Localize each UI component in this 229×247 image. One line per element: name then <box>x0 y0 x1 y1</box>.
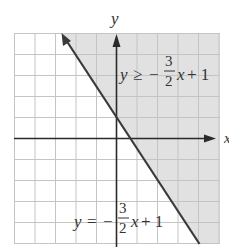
svg-text:+ 1: + 1 <box>187 65 209 84</box>
svg-text:+ 1: + 1 <box>141 212 163 231</box>
svg-text:3: 3 <box>165 53 173 69</box>
x-axis-label: x <box>223 130 229 146</box>
coordinate-graph: y x y ≥ − 3 2 x + 1 y = − 3 2 x + 1 <box>0 0 229 247</box>
svg-text:−: − <box>103 212 113 231</box>
svg-text:x: x <box>176 65 185 84</box>
equation-label: y = − 3 2 x + 1 <box>72 200 163 236</box>
svg-text:2: 2 <box>165 73 173 89</box>
svg-text:2: 2 <box>119 220 127 236</box>
svg-text:3: 3 <box>119 200 127 216</box>
svg-text:−: − <box>149 65 159 84</box>
svg-text:y: y <box>72 212 82 231</box>
svg-text:y: y <box>118 65 128 84</box>
svg-text:x: x <box>130 212 139 231</box>
y-axis-label: y <box>109 9 119 28</box>
svg-text:=: = <box>87 212 97 231</box>
svg-text:≥: ≥ <box>133 65 142 84</box>
